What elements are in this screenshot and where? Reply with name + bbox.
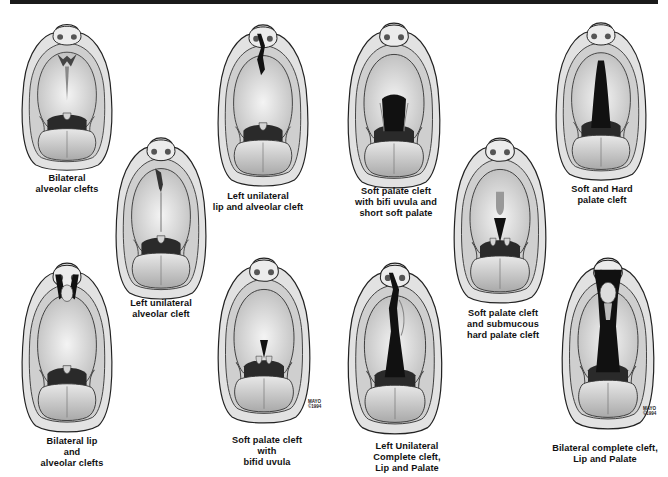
mouth-illustration-soft-palate-cleft-bifid-short — [344, 18, 444, 190]
mayo-signature: MAYO©1994 — [308, 399, 321, 409]
caption-line: lip and alveolar cleft — [213, 202, 304, 213]
mouth-illustration-bilateral-lip-alveolar-clefts — [18, 258, 116, 434]
caption-line: Soft palate cleft — [355, 186, 437, 197]
caption-left-unilateral-lip-alveolar-cleft: Left unilaterallip and alveolar cleft — [213, 191, 304, 213]
caption-line: Left Unilateral — [373, 441, 440, 452]
caption-line: Lip and Palate — [552, 454, 658, 465]
signature-line: ©1994 — [643, 411, 656, 416]
caption-line: Bilateral — [36, 173, 99, 184]
caption-line: with — [232, 446, 302, 457]
mouth-illustration-left-unilateral-alveolar-cleft — [112, 133, 210, 301]
caption-line: Soft palate cleft — [232, 435, 302, 446]
mouth-illustration-left-unilateral-lip-alveolar-cleft — [214, 20, 312, 188]
caption-line: hard palate cleft — [467, 330, 539, 341]
caption-left-unilateral-complete-cleft: Left UnilateralComplete cleft,Lip and Pa… — [373, 441, 440, 474]
mouth-illustration-left-unilateral-complete-cleft — [344, 258, 446, 436]
caption-line: Soft and Hard — [571, 184, 633, 195]
mouth-illustration-soft-palate-cleft-bifid-uvula — [214, 253, 314, 425]
caption-bilateral-lip-alveolar-clefts: Bilateral lipandalveolar clefts — [41, 436, 104, 469]
mouth-illustration-bilateral-complete-cleft — [558, 253, 658, 431]
caption-line: Bilateral lip — [41, 436, 104, 447]
caption-soft-palate-submucous-hard: Soft palate cleftand submucoushard palat… — [467, 308, 539, 341]
caption-bilateral-complete-cleft: Bilateral complete cleft,Lip and Palate — [552, 443, 658, 465]
caption-line: alveolar clefts — [41, 458, 104, 469]
mouth-illustration-soft-and-hard-palate-cleft — [552, 18, 650, 182]
caption-line: Bilateral complete cleft, — [552, 443, 658, 454]
caption-line: Complete cleft, — [373, 452, 440, 463]
caption-line: Left unilateral — [213, 191, 304, 202]
caption-line: with bifi uvula and — [355, 197, 437, 208]
caption-soft-palate-cleft-bifid-short: Soft palate cleftwith bifi uvula andshor… — [355, 186, 437, 219]
caption-line: alveolar clefts — [36, 184, 99, 195]
caption-line: short soft palate — [355, 208, 437, 219]
mouth-illustration-bilateral-alveolar-clefts — [18, 20, 116, 172]
caption-line: Left unilateral — [130, 298, 192, 309]
caption-line: palate cleft — [571, 195, 633, 206]
caption-bilateral-alveolar-clefts: Bilateralalveolar clefts — [36, 173, 99, 195]
mayo-signature: MAYO©1994 — [643, 406, 656, 416]
caption-line: Soft palate cleft — [467, 308, 539, 319]
caption-line: alveolar cleft — [130, 309, 192, 320]
caption-soft-and-hard-palate-cleft: Soft and Hardpalate cleft — [571, 184, 633, 206]
caption-left-unilateral-alveolar-cleft: Left unilateralalveolar cleft — [130, 298, 192, 320]
caption-line: Lip and Palate — [373, 463, 440, 474]
caption-line: and submucous — [467, 319, 539, 330]
caption-line: bifid uvula — [232, 457, 302, 468]
mouth-illustration-soft-palate-submucous-hard — [450, 133, 550, 305]
caption-soft-palate-cleft-bifid-uvula: Soft palate cleftwithbifid uvula — [232, 435, 302, 468]
caption-line: and — [41, 447, 104, 458]
signature-line: ©1994 — [308, 404, 321, 409]
header-bar — [10, 0, 658, 4]
